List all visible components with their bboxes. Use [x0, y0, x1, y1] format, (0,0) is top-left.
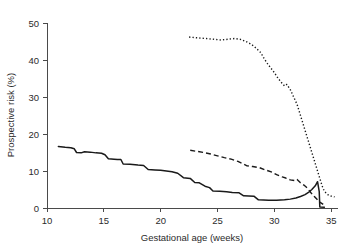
- y-tick-label: 0: [34, 203, 39, 214]
- y-tick-label: 40: [28, 55, 39, 66]
- series-dotted-line: [189, 37, 335, 197]
- data-series-group: [58, 37, 334, 207]
- y-tick-label: 30: [28, 92, 39, 103]
- y-axis-title: Prospective risk (%): [5, 73, 16, 157]
- x-tick-label: 30: [269, 215, 280, 226]
- y-tick-label: 10: [28, 166, 39, 177]
- x-tick-label: 15: [99, 215, 110, 226]
- x-axis-tick-labels: 101520253035: [42, 215, 337, 226]
- y-axis-tick-labels: 01020304050: [28, 18, 39, 214]
- y-tick-label: 50: [28, 18, 39, 29]
- y-tick-label: 20: [28, 129, 39, 140]
- x-tick-label: 20: [155, 215, 166, 226]
- x-axis-ticks: [47, 208, 331, 212]
- chart-figure: 01020304050 101520253035 Gestational age…: [0, 0, 345, 249]
- x-tick-label: 35: [326, 215, 337, 226]
- x-tick-label: 25: [212, 215, 223, 226]
- y-axis-ticks: [43, 23, 47, 208]
- x-axis-title: Gestational age (weeks): [141, 232, 243, 243]
- prospective-risk-line-chart: 01020304050 101520253035 Gestational age…: [0, 0, 345, 249]
- x-tick-label: 10: [42, 215, 53, 226]
